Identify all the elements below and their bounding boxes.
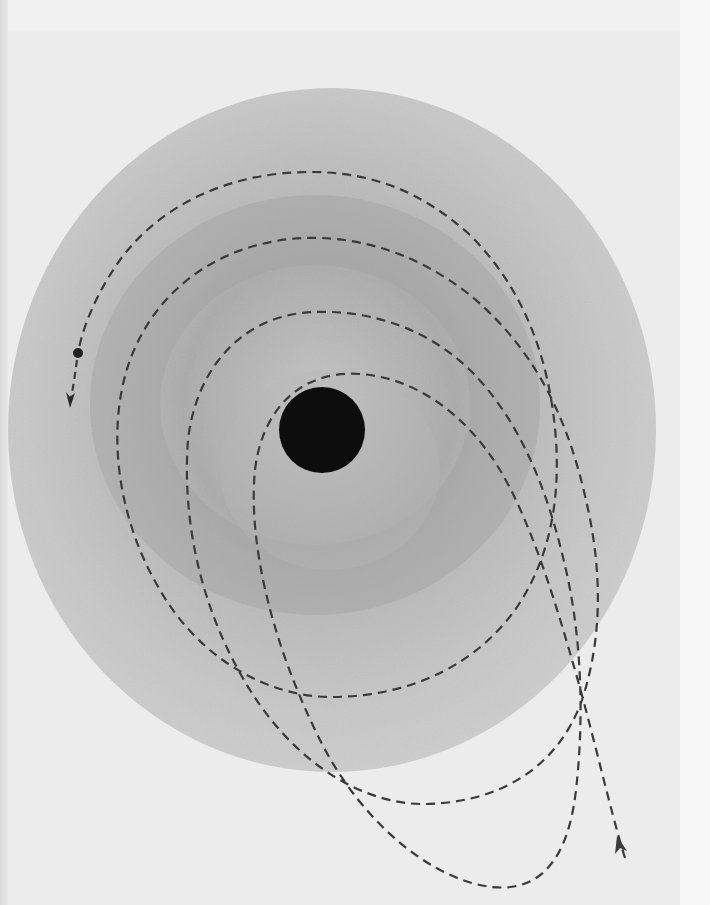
- entry-arrow-icon: [615, 836, 627, 854]
- figure-canvas: [0, 0, 710, 905]
- central-black-mass: [279, 387, 365, 473]
- end-dot-marker: [73, 348, 83, 358]
- orbit-diagram: [0, 0, 710, 905]
